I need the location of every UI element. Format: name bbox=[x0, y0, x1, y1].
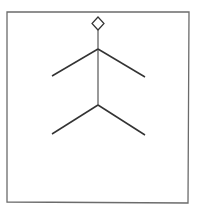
diagram-canvas bbox=[0, 0, 197, 208]
